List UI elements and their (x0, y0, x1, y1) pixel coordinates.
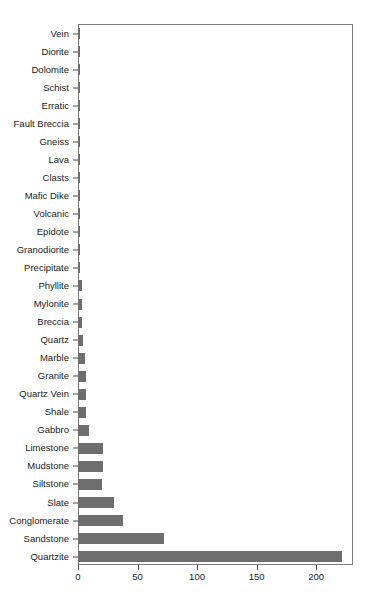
y-axis-tick-fault-breccia: Fault Breccia (0, 114, 78, 133)
x-tick-mark (138, 565, 139, 570)
y-axis-tick-erratic: Erratic (0, 96, 78, 115)
bar-marble (78, 353, 85, 364)
x-axis-label: 200 (308, 572, 324, 582)
bar-slate (78, 497, 114, 508)
y-axis-tick-mudstone: Mudstone (0, 457, 78, 476)
y-axis-tick-shale: Shale (0, 403, 78, 422)
y-axis-label: Mylonite (34, 299, 69, 309)
bar-quartzite (78, 551, 342, 562)
bar-row (78, 439, 353, 458)
y-axis-label: Erratic (42, 101, 69, 111)
bar-fault-breccia (78, 118, 80, 129)
bar-row (78, 24, 353, 43)
bar-row (78, 240, 353, 259)
y-axis-label: Precipitate (24, 263, 69, 273)
bar-erratic (78, 100, 80, 111)
bar-row (78, 168, 353, 187)
y-axis-tick-breccia: Breccia (0, 313, 78, 332)
bar-gabbro (78, 425, 89, 436)
bar-epidote (78, 226, 80, 237)
bar-granite (78, 371, 86, 382)
y-axis-label: Breccia (37, 317, 69, 327)
x-tick-mark (197, 565, 198, 570)
y-axis-tick-dolomite: Dolomite (0, 60, 78, 79)
y-axis-tick-volcanic: Volcanic (0, 204, 78, 223)
bar-limestone (78, 443, 103, 454)
bar-mylonite (78, 299, 82, 310)
y-axis-label: Shale (45, 408, 69, 418)
y-axis-tick-gneiss: Gneiss (0, 132, 78, 151)
bar-row (78, 295, 353, 314)
y-axis-tick-mylonite: Mylonite (0, 295, 78, 314)
bar-row (78, 529, 353, 548)
y-axis-tick-quartz: Quartz (0, 331, 78, 350)
y-axis-label: Clasts (43, 173, 69, 183)
x-axis-label: 0 (75, 572, 80, 582)
y-axis-label: Sandstone (24, 534, 69, 544)
bar-sandstone (78, 533, 164, 544)
y-axis-tick-diorite: Diorite (0, 42, 78, 61)
y-axis-label: Vein (51, 29, 70, 39)
bar-row (78, 258, 353, 277)
bar-volcanic (78, 208, 80, 219)
bar-row (78, 60, 353, 79)
y-axis-label: Schist (43, 83, 69, 93)
bar-diorite (78, 46, 80, 57)
y-axis-label: Siltstone (33, 480, 69, 490)
bar-siltstone (78, 479, 102, 490)
bar-row (78, 403, 353, 422)
y-axis-tick-limestone: Limestone (0, 439, 78, 458)
y-axis-label: Phyllite (38, 281, 69, 291)
bar-gneiss (78, 136, 80, 147)
y-axis-label: Quartz (40, 335, 69, 345)
y-axis-label: Marble (40, 353, 69, 363)
bar-quartz (78, 335, 83, 346)
bar-row (78, 96, 353, 115)
y-axis-tick-precipitate: Precipitate (0, 258, 78, 277)
y-axis-tick-clasts: Clasts (0, 168, 78, 187)
y-axis: VeinDioriteDolomiteSchistErraticFault Br… (0, 24, 78, 565)
y-axis-tick-schist: Schist (0, 78, 78, 97)
bar-shale (78, 407, 86, 418)
y-axis-tick-phyllite: Phyllite (0, 276, 78, 295)
bar-row (78, 42, 353, 61)
bar-lava (78, 154, 80, 165)
bar-precipitate (78, 262, 80, 273)
bar-row (78, 313, 353, 332)
y-axis-label: Granodiorite (17, 245, 69, 255)
y-axis-tick-siltstone: Siltstone (0, 475, 78, 494)
bar-row (78, 493, 353, 512)
x-tick-mark (78, 565, 79, 570)
bar-row (78, 421, 353, 440)
bar-phyllite (78, 280, 82, 291)
y-axis-label: Quartzite (30, 552, 69, 562)
bar-row (78, 385, 353, 404)
y-axis-label: Slate (47, 498, 69, 508)
y-axis-label: Lava (48, 155, 69, 165)
y-axis-label: Gabbro (37, 426, 69, 436)
y-axis-label: Gneiss (39, 137, 69, 147)
y-axis-label: Granite (38, 372, 69, 382)
bar-granodiorite (78, 244, 80, 255)
x-tick-mark (257, 565, 258, 570)
bar-row (78, 475, 353, 494)
y-axis-label: Dolomite (32, 65, 70, 75)
x-axis-label: 150 (249, 572, 265, 582)
y-axis-label: Fault Breccia (14, 119, 69, 129)
y-axis-tick-mafic-dike: Mafic Dike (0, 186, 78, 205)
bar-schist (78, 82, 80, 93)
y-axis-label: Epidote (37, 227, 69, 237)
y-axis-label: Limestone (25, 444, 69, 454)
y-axis-label: Mafic Dike (25, 191, 69, 201)
bar-conglomerate (78, 515, 123, 526)
y-axis-label: Diorite (42, 47, 69, 57)
y-axis-tick-conglomerate: Conglomerate (0, 511, 78, 530)
bars-layer (78, 24, 353, 565)
y-axis-label: Quartz Vein (19, 390, 69, 400)
x-tick-mark (316, 565, 317, 570)
bar-breccia (78, 317, 82, 328)
y-axis-label: Volcanic (34, 209, 69, 219)
x-axis-label: 100 (189, 572, 205, 582)
bar-quartz-vein (78, 389, 86, 400)
x-axis-label: 50 (132, 572, 143, 582)
